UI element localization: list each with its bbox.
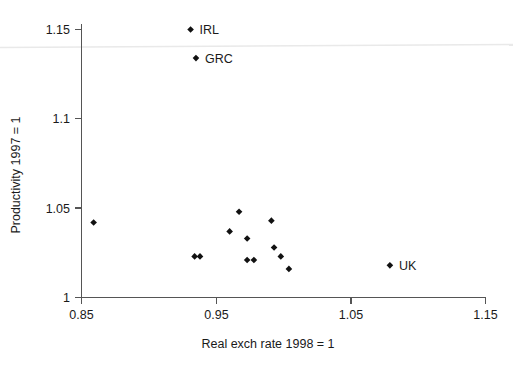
data-point-marker (90, 219, 97, 226)
scatter-chart: 1.15 1.1 1.05 1 0.85 0.95 1.05 1.15 Real… (0, 0, 513, 365)
data-point-group: IRLGRCUK (90, 23, 417, 273)
data-point-marker (236, 208, 243, 215)
x-axis-title: Real exch rate 1998 = 1 (201, 337, 334, 351)
x-tick-label-3: 1.15 (473, 308, 497, 322)
y-tick-label-2: 1.05 (46, 202, 70, 216)
data-point-marker (187, 26, 194, 33)
y-tick-label-3: 1 (63, 291, 70, 305)
x-tick-label-0: 0.85 (69, 308, 93, 322)
plot-area: 1.15 1.1 1.05 1 0.85 0.95 1.05 1.15 Real… (0, 0, 513, 365)
scan-line-artifact (0, 45, 513, 48)
data-point-label-grc: GRC (205, 52, 233, 66)
data-point-marker (193, 55, 200, 62)
data-point-label-uk: UK (399, 259, 417, 273)
data-point-marker (226, 228, 233, 235)
data-point-marker (387, 262, 394, 269)
data-point-marker (251, 257, 258, 264)
data-point-marker (197, 253, 204, 260)
x-tick-label-1: 0.95 (204, 308, 228, 322)
x-axis-ticks (82, 298, 486, 305)
data-point-marker (278, 253, 285, 260)
data-point-marker (268, 217, 275, 224)
y-axis-ticks (75, 30, 82, 298)
y-axis-title: Productivity 1997 = 1 (9, 116, 23, 233)
y-tick-label-0: 1.15 (46, 23, 70, 37)
data-point-label-irl: IRL (200, 23, 220, 37)
data-point-marker (286, 266, 293, 273)
data-point-marker (271, 244, 278, 251)
y-tick-label-1: 1.1 (53, 112, 70, 126)
data-point-marker (244, 235, 251, 242)
data-point-marker (244, 257, 251, 264)
x-tick-label-2: 1.05 (339, 308, 363, 322)
